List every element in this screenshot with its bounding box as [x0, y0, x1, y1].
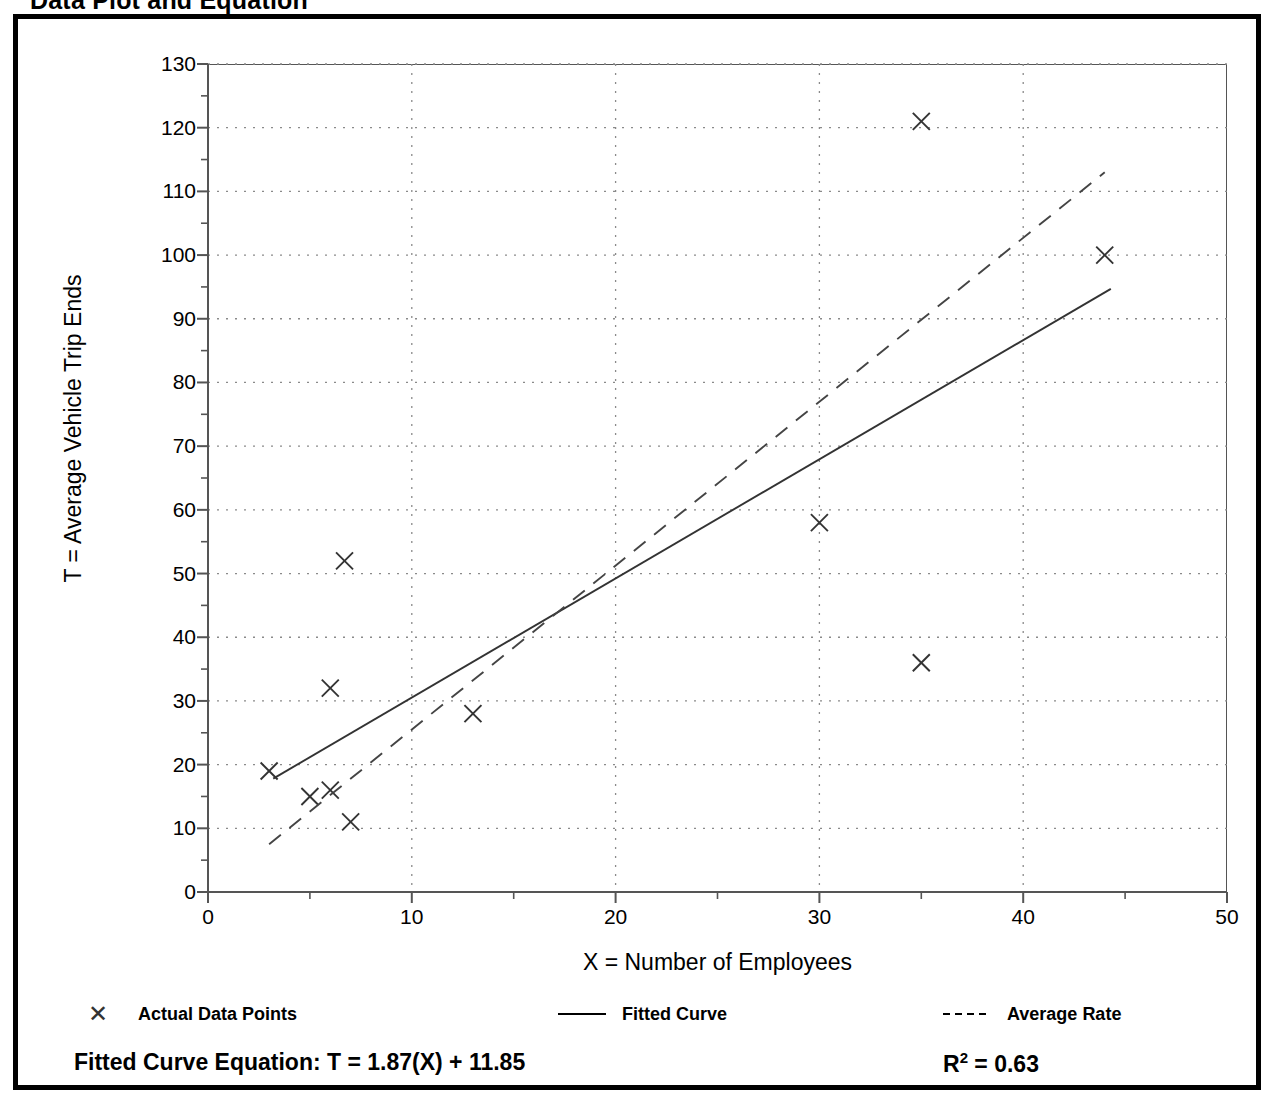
x-axis-tick-label: 30: [808, 905, 831, 929]
y-axis-tick-label: 10: [173, 816, 196, 840]
y-axis-tick-label: 100: [161, 243, 196, 267]
x-axis-title: X = Number of Employees: [208, 949, 1227, 976]
fitted-curve-line: [273, 289, 1111, 779]
legend-item: ✕Actual Data Points: [74, 994, 297, 1034]
y-axis-tick-label: 40: [173, 625, 196, 649]
fitted-curve-equation: Fitted Curve Equation: T = 1.87(X) + 11.…: [74, 1049, 525, 1076]
chart-canvas: [208, 64, 1227, 892]
x-axis-tick-label: 0: [202, 905, 214, 929]
x-axis-tick-label: 50: [1215, 905, 1238, 929]
y-axis-tick-label: 50: [173, 562, 196, 586]
y-axis-tick-label: 130: [161, 52, 196, 76]
data-point-marker: [301, 788, 318, 805]
legend-item-label: Fitted Curve: [622, 1004, 727, 1025]
y-axis-tick-label: 0: [184, 880, 196, 904]
y-axis-tick-label: 90: [173, 307, 196, 331]
y-axis-tick-label: 70: [173, 434, 196, 458]
chart-frame: T = Average Vehicle Trip Ends 0102030405…: [13, 14, 1261, 1090]
y-axis-title: T = Average Vehicle Trip Ends: [60, 119, 87, 739]
y-axis-tick-label: 120: [161, 116, 196, 140]
x-axis-tick-label: 20: [604, 905, 627, 929]
data-point-marker: [336, 552, 353, 569]
r-squared-base: R: [943, 1051, 960, 1077]
chart-page: Data Plot and Equation T = Average Vehic…: [0, 0, 1276, 1105]
data-point-marker: [464, 705, 481, 722]
r-squared-value: R2 = 0.63: [943, 1049, 1039, 1078]
plot-area: [208, 64, 1227, 892]
legend-x-marker-icon: ✕: [74, 1002, 122, 1026]
data-point-marker: [322, 680, 339, 697]
legend-item-label: Average Rate: [1007, 1004, 1121, 1025]
legend-dashed-line-icon: [943, 1008, 991, 1020]
y-axis-tick-label: 60: [173, 498, 196, 522]
legend-item: Fitted Curve: [558, 994, 727, 1034]
average-rate-line: [269, 172, 1105, 844]
plot-wrapper: T = Average Vehicle Trip Ends 0102030405…: [18, 19, 1266, 1095]
data-point-marker: [1096, 247, 1113, 264]
y-axis-tick-label: 20: [173, 753, 196, 777]
y-axis-tick-label: 110: [163, 179, 196, 203]
legend-solid-line-icon: [558, 1008, 606, 1020]
data-point-marker: [342, 813, 359, 830]
data-point-marker: [913, 113, 930, 130]
y-axis-tick-label: 30: [173, 689, 196, 713]
page-title: Data Plot and Equation: [30, 0, 308, 15]
data-point-marker: [811, 514, 828, 531]
legend-item: Average Rate: [943, 994, 1121, 1034]
y-axis-tick-label: 80: [173, 370, 196, 394]
x-axis-tick-label: 40: [1012, 905, 1035, 929]
x-axis-tick-labels: 01020304050: [208, 905, 1227, 935]
legend-item-label: Actual Data Points: [138, 1004, 297, 1025]
y-axis-tick-labels: 0102030405060708090100110120130: [136, 64, 196, 892]
x-axis-tick-label: 10: [400, 905, 423, 929]
r-squared-number: = 0.63: [974, 1051, 1039, 1077]
data-point-marker: [913, 654, 930, 671]
r-squared-exponent: 2: [960, 1049, 968, 1066]
chart-legend: ✕Actual Data PointsFitted CurveAverage R…: [18, 994, 1266, 1034]
